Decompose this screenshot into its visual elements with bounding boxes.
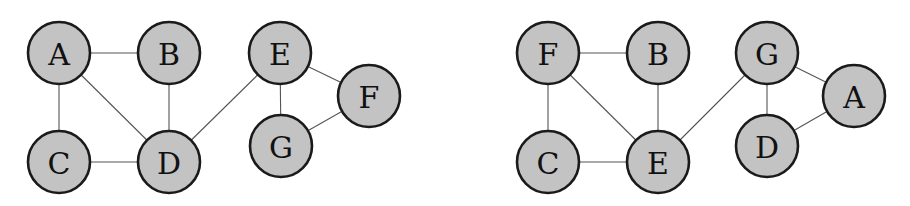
node-A: A bbox=[28, 22, 90, 84]
node-F: F bbox=[517, 22, 579, 84]
graph-right: FBCEGAD bbox=[517, 22, 885, 193]
graph-left: ABCDEFG bbox=[28, 22, 400, 193]
node-label: C bbox=[48, 146, 71, 181]
node-label: D bbox=[755, 130, 779, 165]
node-C: C bbox=[28, 131, 90, 193]
node-label: E bbox=[269, 37, 291, 72]
node-A: A bbox=[823, 65, 885, 127]
node-label: A bbox=[47, 37, 70, 72]
node-label: D bbox=[157, 146, 181, 181]
node-D: D bbox=[736, 115, 798, 177]
node-F: F bbox=[338, 65, 400, 127]
node-label: B bbox=[647, 37, 669, 72]
node-C: C bbox=[517, 131, 579, 193]
node-label: F bbox=[538, 37, 559, 72]
node-label: G bbox=[269, 130, 293, 165]
node-label: A bbox=[842, 80, 865, 115]
node-B: B bbox=[627, 22, 689, 84]
node-G: G bbox=[250, 115, 312, 177]
node-label: G bbox=[755, 37, 779, 72]
node-label: B bbox=[158, 37, 180, 72]
node-label: F bbox=[359, 80, 380, 115]
node-E: E bbox=[627, 131, 689, 193]
node-label: C bbox=[537, 146, 560, 181]
node-D: D bbox=[138, 131, 200, 193]
node-B: B bbox=[138, 22, 200, 84]
node-G: G bbox=[736, 22, 798, 84]
node-E: E bbox=[249, 22, 311, 84]
node-label: E bbox=[647, 146, 669, 181]
graph-diagram: ABCDEFG FBCEGAD bbox=[0, 0, 910, 206]
